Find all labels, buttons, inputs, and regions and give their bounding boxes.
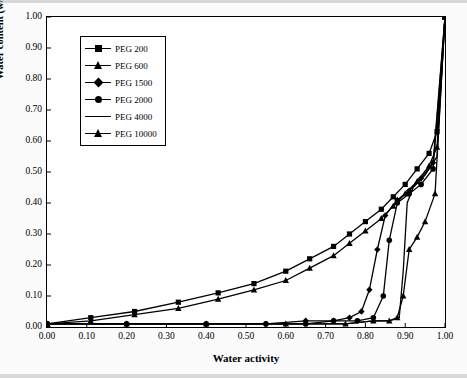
x-tick-label: 0.90: [388, 332, 422, 342]
legend-label: PEG 10000: [115, 129, 157, 139]
y-tick-label: 1.00: [8, 12, 42, 22]
x-tick-label: 0.20: [110, 332, 144, 342]
x-tick-label: 0.60: [269, 332, 303, 342]
x-tick-label: 0.50: [229, 332, 263, 342]
y-tick-label: 0.30: [8, 229, 42, 239]
x-tick-label: 0.30: [149, 332, 183, 342]
x-tick-label: 0.10: [70, 332, 104, 342]
y-tick-label: 0.70: [8, 105, 42, 115]
legend-item: PEG 1500: [85, 74, 161, 91]
legend-item: PEG 200: [85, 40, 161, 57]
y-tick-label: 0.40: [8, 198, 42, 208]
x-tick-label: 0.70: [309, 332, 343, 342]
legend-item: PEG 2000: [85, 91, 161, 108]
legend-label: PEG 600: [115, 61, 148, 71]
legend-label: PEG 2000: [115, 95, 152, 105]
x-tick-label: 0.00: [30, 332, 64, 342]
y-tick-label: 0.00: [8, 322, 42, 332]
y-tick-label: 0.50: [8, 167, 42, 177]
scan-edge-bottom: [0, 374, 467, 378]
x-tick-label: 0.40: [189, 332, 223, 342]
legend-item: PEG 10000: [85, 125, 161, 142]
y-axis-title: Water content (w/w): [0, 0, 5, 104]
x-tick-label: 1.00: [428, 332, 462, 342]
legend-label: PEG 4000: [115, 112, 152, 122]
y-tick-label: 0.20: [8, 260, 42, 270]
legend-marker-line: [85, 111, 111, 122]
legend-marker-triangle: [85, 128, 111, 139]
legend-label: PEG 1500: [115, 78, 152, 88]
scan-edge-top: [0, 0, 467, 3]
legend: PEG 200 PEG 600 PEG 1500 PEG 2000: [80, 36, 166, 146]
x-tick-label: 0.80: [348, 332, 382, 342]
y-tick-label: 0.10: [8, 291, 42, 301]
y-tick-label: 0.90: [8, 43, 42, 53]
legend-marker-square: [85, 43, 111, 54]
y-tick-label: 0.80: [8, 74, 42, 84]
y-tick-label: 0.60: [8, 136, 42, 146]
legend-marker-diamond: [85, 77, 111, 88]
legend-item: PEG 4000: [85, 108, 161, 125]
legend-marker-triangle: [85, 60, 111, 71]
chart-container: Water content (w/w) Water activity PEG 2…: [0, 0, 467, 378]
legend-label: PEG 200: [115, 44, 148, 54]
x-axis-title: Water activity: [46, 352, 446, 364]
legend-item: PEG 600: [85, 57, 161, 74]
legend-marker-circle: [85, 94, 111, 105]
